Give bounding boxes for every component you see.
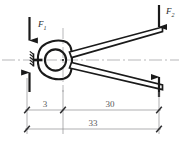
support-hatch <box>30 51 34 54</box>
dimension-value-33: 33 <box>89 118 99 128</box>
lower-handle-arm <box>70 62 163 89</box>
dimension-value-30: 30 <box>106 99 116 109</box>
force-label-f1: F1 <box>37 19 47 31</box>
dimension-value-3: 3 <box>43 99 48 109</box>
diagram-canvas: F1 F2 3 30 33 <box>0 0 181 143</box>
upper-handle-arm <box>70 27 163 58</box>
handle-arms <box>70 27 163 90</box>
force-label-f2: F2 <box>165 6 175 18</box>
pliers-force-diagram: F1 F2 3 30 33 <box>0 0 181 143</box>
left-fixed-support <box>30 51 43 66</box>
force-label-f1-subscript: 1 <box>44 25 47 31</box>
pivot-point <box>62 59 64 61</box>
force-label-f2-subscript: 2 <box>172 12 175 18</box>
dimension-row-lower: 33 <box>24 118 162 132</box>
dimension-row-upper: 3 30 <box>24 99 162 113</box>
